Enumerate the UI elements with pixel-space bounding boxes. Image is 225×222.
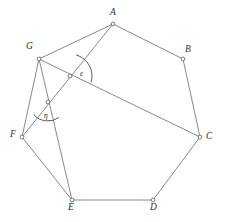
vertex-label-e: E xyxy=(68,203,74,213)
vertex-label-f: F xyxy=(10,130,16,140)
diagonal-a-f xyxy=(22,24,113,137)
geometry-canvas xyxy=(0,0,225,222)
edge-a-b xyxy=(113,24,183,59)
vertex-label-d: D xyxy=(150,203,157,213)
intersection-marker-p1 xyxy=(68,74,72,78)
vertex-marker-a xyxy=(111,22,115,26)
vertex-marker-c xyxy=(198,135,202,139)
diagonal-g-c xyxy=(39,59,200,137)
vertex-label-b: B xyxy=(185,45,191,55)
angle-label-epsilon: ε xyxy=(80,70,83,78)
edge-b-c xyxy=(183,59,200,137)
edge-c-d xyxy=(153,137,200,200)
vertex-label-c: C xyxy=(206,132,212,142)
vertex-marker-b xyxy=(181,57,185,61)
angle-label-eta: η xyxy=(44,112,48,120)
intersection-marker-p2 xyxy=(46,100,50,104)
polygon-edges-group xyxy=(22,24,200,200)
vertex-marker-f xyxy=(20,135,24,139)
geometry-figure: ABCDEFGεη xyxy=(0,0,225,222)
diagonals-group xyxy=(22,24,200,200)
vertex-label-a: A xyxy=(110,8,116,18)
edge-f-g xyxy=(22,59,39,137)
edge-g-a xyxy=(39,24,113,59)
vertex-marker-g xyxy=(37,57,41,61)
vertex-label-g: G xyxy=(26,42,33,52)
